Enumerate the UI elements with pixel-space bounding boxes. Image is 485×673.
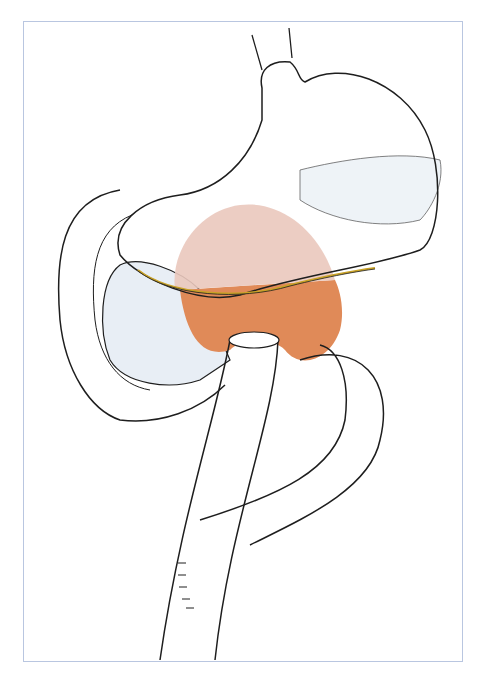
jejunal-limb [160,340,278,660]
anastomosis [229,332,279,348]
suture-marks [178,563,194,608]
stomach-pancreas-illustration [0,0,485,673]
efferent-loop [200,345,383,545]
pancreas-right [300,156,441,224]
